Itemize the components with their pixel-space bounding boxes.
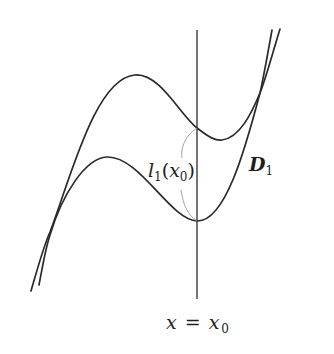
upper-curve — [31, 29, 280, 291]
length-arc — [182, 128, 197, 158]
line-equation-label: x=x0 — [166, 311, 229, 336]
lower-curve — [39, 30, 272, 285]
diagram-canvas: l1(x0) D1 x=x0 — [0, 0, 334, 354]
length-label: l1(x0) — [148, 159, 195, 184]
region-label: D1 — [248, 153, 273, 178]
